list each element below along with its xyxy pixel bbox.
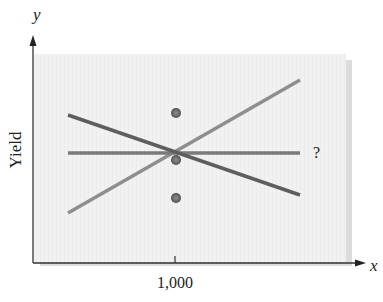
data-point-low	[171, 193, 181, 203]
yield-label: Yield	[6, 131, 25, 168]
tick-label: 1,000	[157, 274, 193, 291]
data-point-middle	[171, 155, 181, 165]
data-point-high	[171, 108, 181, 118]
y-axis-label: y	[31, 5, 41, 24]
y-axis-arrow-icon	[30, 35, 37, 46]
x-axis-label: x	[369, 256, 378, 275]
yield-diagram: y x Yield 1,000 ?	[0, 0, 383, 302]
question-mark: ?	[313, 144, 320, 161]
x-axis-arrow-icon	[355, 260, 366, 267]
